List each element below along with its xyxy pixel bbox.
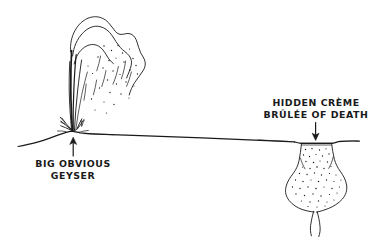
creme-brulee-label-line2: BRÛLÉE OF DEATH	[264, 109, 369, 120]
geyser-spray-outline	[70, 17, 145, 100]
geyser-jet-column	[69, 51, 87, 132]
geyser-droplets	[87, 45, 138, 114]
geyser-label-line2: GEYSER	[51, 170, 96, 181]
hidden-creme-brulee-of-death	[286, 123, 347, 237]
label-big-obvious-geyser: BIG OBVIOUS GEYSER	[35, 158, 110, 181]
creme-brulee-crust	[301, 143, 333, 145]
comic-figure: BIG OBVIOUS GEYSER HIDDEN CRÈME BRÛLÉE O…	[0, 0, 375, 241]
comic-canvas: BIG OBVIOUS GEYSER HIDDEN CRÈME BRÛLÉE O…	[0, 0, 375, 241]
label-hidden-creme-brulee: HIDDEN CRÈME BRÛLÉE OF DEATH	[264, 97, 369, 120]
ground-surface-line	[18, 131, 360, 146]
geyser-pointer-up-arrow	[70, 137, 77, 156]
geyser-label-line1: BIG OBVIOUS	[35, 158, 110, 169]
creme-brulee-pointer-down-arrow	[312, 123, 319, 141]
creme-brulee-label-line1: HIDDEN CRÈME	[272, 97, 359, 108]
